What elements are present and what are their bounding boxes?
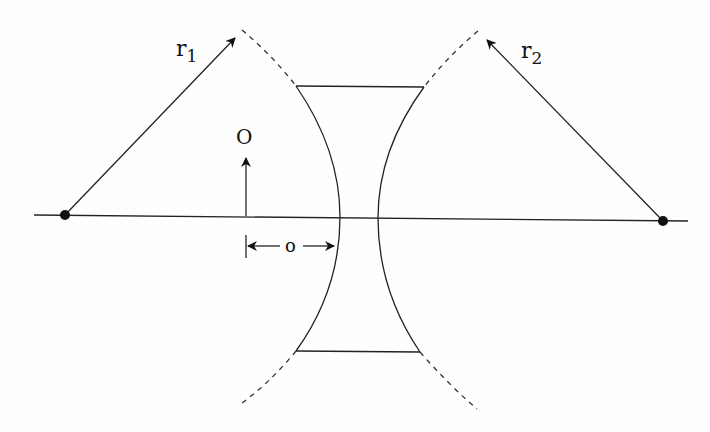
- optical-axis: [34, 215, 688, 221]
- lens-diagram: r1 r2 O o: [0, 0, 710, 432]
- label-object-distance: o: [285, 235, 296, 256]
- center-of-curvature-2: [658, 216, 668, 226]
- right-surface: [378, 87, 424, 352]
- label-object: O: [236, 125, 252, 149]
- radius-r2-arrow: [487, 40, 663, 221]
- lens-top-edge: [296, 86, 424, 87]
- right-surface-dashed-bottom: [420, 352, 477, 409]
- center-of-curvature-1: [60, 210, 70, 220]
- left-surface-dashed-top: [242, 30, 296, 86]
- left-surface: [296, 86, 340, 351]
- right-surface-dashed-top: [424, 31, 478, 87]
- lens-bottom-edge: [296, 351, 420, 352]
- left-surface-dashed-bottom: [238, 351, 296, 406]
- radius-r1-arrow: [65, 38, 235, 215]
- label-r1: r1: [176, 36, 197, 66]
- label-r2: r2: [521, 38, 542, 68]
